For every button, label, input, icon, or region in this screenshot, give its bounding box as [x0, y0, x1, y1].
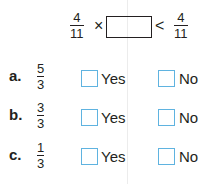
yes-label: Yes — [101, 70, 125, 87]
numerator: 4 — [177, 11, 184, 24]
option-label: b. — [9, 106, 22, 123]
no-label: No — [179, 148, 198, 165]
yes-checkbox[interactable] — [81, 70, 98, 87]
denominator: 11 — [70, 27, 84, 40]
no-checkbox[interactable] — [158, 109, 175, 126]
yes-checkbox[interactable] — [81, 148, 98, 165]
yes-checkbox[interactable] — [81, 109, 98, 126]
left-fraction: 4 11 — [70, 11, 84, 40]
no-label: No — [179, 109, 198, 126]
less-than-sign: < — [155, 17, 164, 35]
option-fraction: 1 3 — [37, 141, 44, 170]
option-fraction: 5 3 — [37, 62, 44, 91]
no-label: No — [179, 70, 198, 87]
numerator: 4 — [73, 11, 80, 24]
yes-label: Yes — [101, 109, 125, 126]
option-fraction: 3 3 — [37, 101, 44, 130]
option-label: a. — [9, 67, 22, 84]
blank-box — [106, 16, 152, 38]
no-checkbox[interactable] — [158, 148, 175, 165]
times-sign: × — [94, 17, 103, 35]
no-checkbox[interactable] — [158, 70, 175, 87]
option-label: c. — [9, 146, 22, 163]
right-fraction: 4 11 — [174, 11, 188, 40]
yes-label: Yes — [101, 148, 125, 165]
denominator: 11 — [174, 27, 188, 40]
